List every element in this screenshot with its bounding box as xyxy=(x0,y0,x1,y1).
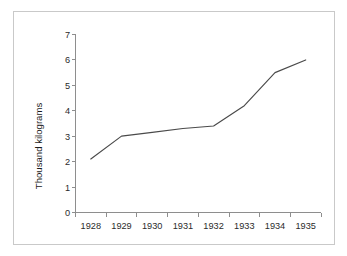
line-chart-canvas: Thousand kilograms 7 6 5 4 3 2 1 0 xyxy=(14,12,334,244)
x-tick-label-1929: 1929 xyxy=(111,221,131,231)
y-tick-label-7: 7 xyxy=(65,30,70,40)
y-tick-label-3: 3 xyxy=(65,132,70,142)
x-tick-label-1932: 1932 xyxy=(203,221,223,231)
y-tick-label-4: 4 xyxy=(65,106,70,116)
y-tick-label-2: 2 xyxy=(65,157,70,167)
x-tick-label-1935: 1935 xyxy=(295,221,315,231)
chart-figure: Thousand kilograms 7 6 5 4 3 2 1 0 xyxy=(0,0,347,256)
x-tick-label-1931: 1931 xyxy=(173,221,193,231)
y-tick-label-5: 5 xyxy=(65,81,70,91)
y-tick-label-0: 0 xyxy=(65,208,70,218)
y-axis-title: Thousand kilograms xyxy=(33,103,44,190)
x-tick-label-1934: 1934 xyxy=(265,221,285,231)
y-tick-label-6: 6 xyxy=(65,55,70,65)
chart-frame: Thousand kilograms 7 6 5 4 3 2 1 0 xyxy=(13,11,335,245)
y-tick-label-1: 1 xyxy=(65,183,70,193)
x-tick-label-1928: 1928 xyxy=(81,221,101,231)
data-series-line xyxy=(91,60,306,159)
x-tick-label-1930: 1930 xyxy=(142,221,162,231)
x-tick-label-1933: 1933 xyxy=(234,221,254,231)
